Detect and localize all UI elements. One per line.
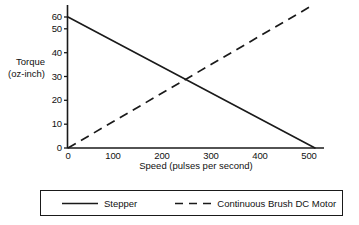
legend-label-continuous-brush-dc-motor: Continuous Brush DC Motor	[217, 198, 336, 209]
x-tick-label-500: 500	[294, 151, 324, 161]
x-tick-label-400: 400	[245, 151, 275, 161]
series-line-stepper	[68, 17, 315, 148]
x-tick-label-300: 300	[196, 151, 226, 161]
legend-key-dashed-icon	[175, 199, 211, 208]
x-axis-title: Speed (pulses per second)	[96, 160, 296, 171]
legend-entry-stepper: Stepper	[62, 198, 137, 209]
y-axis-title-line-1: Torque	[0, 56, 45, 68]
torque-speed-chart-figure: 60 50 40 30 20 10 0 0 100 200 300 400 50…	[0, 0, 359, 225]
legend: Stepper Continuous Brush DC Motor	[40, 190, 343, 216]
y-tick-label-20: 20	[38, 95, 62, 105]
y-tick-label-10: 10	[38, 119, 62, 129]
y-axis-title-line-2: (oz-inch)	[0, 68, 45, 80]
x-tick-label-100: 100	[98, 151, 128, 161]
x-tick-label-200: 200	[147, 151, 177, 161]
legend-label-stepper: Stepper	[104, 198, 137, 209]
legend-entry-continuous-brush-dc-motor: Continuous Brush DC Motor	[175, 198, 336, 209]
legend-key-solid-icon	[62, 199, 98, 208]
y-tick-label-50: 50	[38, 24, 62, 34]
x-tick-label-0: 0	[53, 151, 83, 161]
y-axis-title: Torque (oz-inch)	[0, 56, 45, 79]
y-tick-label-60: 60	[38, 12, 62, 22]
